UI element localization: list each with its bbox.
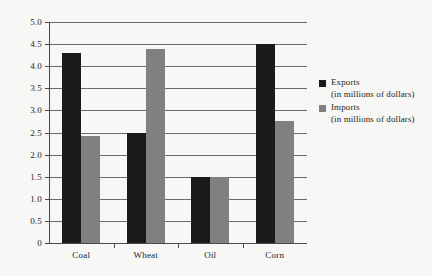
bar-imports-wheat [146, 49, 165, 243]
legend-entry-imports: Imports(in millions of dollars) [319, 102, 415, 125]
y-axis-line [49, 22, 50, 244]
bar-imports-oil [210, 177, 229, 243]
bar-imports-coal [81, 136, 100, 243]
bar-exports-wheat [127, 133, 146, 244]
y-tick-label: 4.5 [30, 39, 42, 49]
y-tick-label: 2.5 [30, 128, 42, 138]
y-tick-label: 1.0 [30, 194, 42, 204]
y-tick-label: 4.0 [30, 61, 42, 71]
y-tick-label: 0 [37, 238, 42, 248]
legend-swatch-icon [319, 80, 326, 87]
bar-chart-figure: 5.04.54.03.53.02.52.01.51.00.50 CoalWhea… [0, 0, 432, 276]
bar-group: Oil [191, 22, 229, 243]
x-category-label: Oil [204, 250, 216, 260]
y-tick-label: 5.0 [30, 17, 42, 27]
bar-group: Corn [256, 22, 294, 243]
legend-label: Exports(in millions of dollars) [331, 77, 415, 100]
bar-exports-coal [62, 53, 81, 243]
x-category-label: Corn [265, 250, 284, 260]
legend-units: (in millions of dollars) [331, 89, 415, 101]
legend-units: (in millions of dollars) [331, 114, 415, 126]
x-axis-line [49, 243, 307, 244]
legend-entry-exports: Exports(in millions of dollars) [319, 77, 415, 100]
bar-group: Wheat [127, 22, 165, 243]
y-tick-label: 3.5 [30, 83, 42, 93]
bar-imports-corn [275, 121, 294, 243]
bar-exports-oil [191, 177, 210, 243]
y-tick-label: 2.0 [30, 150, 42, 160]
plot-area: 5.04.54.03.53.02.52.01.51.00.50 CoalWhea… [49, 22, 307, 244]
x-category-label: Coal [72, 250, 90, 260]
chart-legend: Exports(in millions of dollars)Imports(i… [319, 77, 415, 127]
bar-exports-corn [256, 44, 275, 243]
bar-group: Coal [62, 22, 100, 243]
y-tick-label: 1.5 [30, 172, 42, 182]
y-tick-label: 0.5 [30, 216, 42, 226]
legend-swatch-icon [319, 105, 326, 112]
y-tick-label: 3.0 [30, 105, 42, 115]
x-category-label: Wheat [134, 250, 158, 260]
legend-label: Imports(in millions of dollars) [331, 102, 415, 125]
